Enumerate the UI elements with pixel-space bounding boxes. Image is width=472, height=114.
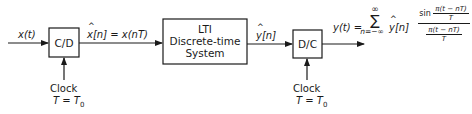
input-signal-label: x(t): [18, 30, 36, 40]
sinc-fraction: sin π(t − nT) T π(t − nT) T: [418, 5, 470, 43]
denominator-fraction: π(t − nT) T: [426, 26, 461, 43]
cd-clock-period: T = T0: [53, 96, 84, 109]
sin-argument: π(t − nT) T: [433, 5, 468, 22]
denominator-denominator: T: [426, 34, 461, 43]
lti-system-label: LTI Discrete-time System: [163, 23, 247, 59]
lti-line-2: Discrete-time: [163, 35, 247, 47]
cd-clock-subscript: 0: [80, 101, 84, 109]
denominator-numerator: π(t − nT): [426, 26, 461, 34]
sum-lower-limit: n=−∞: [357, 28, 387, 36]
sinc-denominator: π(t − nT) T: [418, 23, 470, 43]
dc-clock-subscript: 0: [323, 101, 327, 109]
cd-converter-label: C/D: [49, 37, 79, 49]
sin-arg-numerator: π(t − nT): [433, 5, 468, 13]
y-hat-symbol: y: [256, 31, 262, 41]
sin-arg-denominator: T: [433, 13, 468, 22]
x-hat-symbol: x: [87, 30, 93, 40]
cd-output-label: x[n] = x(nT): [87, 30, 148, 40]
sum-term: y[n]: [389, 23, 409, 33]
lti-line-1: LTI: [163, 23, 247, 35]
dc-converter-label: D/C: [293, 38, 322, 50]
dc-clock-period: T = T0: [296, 96, 327, 109]
lti-output-label: y[n]: [256, 31, 276, 41]
lti-output-index: [n]: [262, 30, 276, 41]
cd-output-expression: [n] = x(nT): [93, 29, 148, 40]
lti-line-3: System: [163, 47, 247, 59]
sum-symbol: ∑: [363, 13, 387, 27]
dc-clock-period-text: T = T: [296, 95, 323, 106]
cd-clock-period-text: T = T: [53, 95, 80, 106]
sinc-numerator: sin π(t − nT) T: [418, 5, 470, 23]
summation: ∞ ∑ n=−∞: [363, 5, 387, 36]
term-index: [n]: [395, 22, 409, 33]
y-hat-term: y: [389, 23, 395, 33]
cd-clock-label: Clock: [50, 84, 77, 94]
dc-clock-label: Clock: [293, 84, 320, 94]
sin-word: sin: [419, 9, 430, 18]
